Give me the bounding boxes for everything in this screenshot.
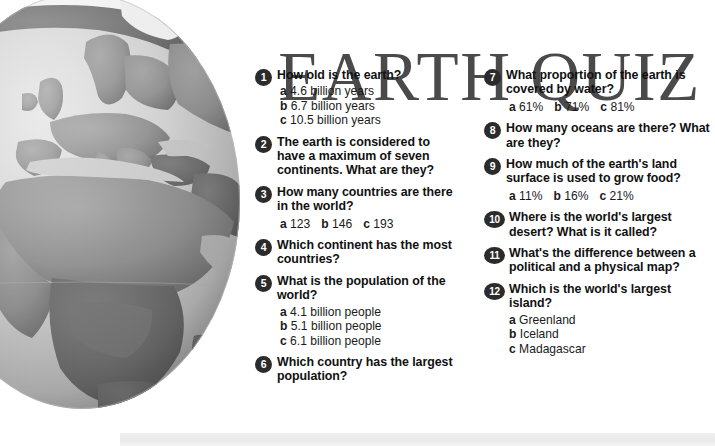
- turkey-anatolia: [150, 154, 210, 186]
- answer-value: 146: [332, 217, 352, 231]
- question-number-badge: 6: [255, 356, 272, 373]
- question-number-badge: 1: [255, 69, 272, 86]
- answer-value: 6.7 billion years: [291, 99, 375, 113]
- greenland: [120, 0, 186, 40]
- quiz-question-3: 3How many countries are there in the wor…: [255, 185, 460, 231]
- question-number-badge: 8: [484, 122, 501, 139]
- answer-option-c[interactable]: c Madagascar: [509, 342, 712, 356]
- answer-option-a[interactable]: a 4.1 billion people: [280, 305, 460, 319]
- answer-value: 71%: [565, 100, 589, 114]
- question-text: What is the population of the world?: [277, 274, 460, 303]
- answer-option-b[interactable]: b 146: [321, 217, 352, 231]
- bottom-panel-strip: [120, 433, 715, 446]
- arabian-sea: [200, 235, 242, 286]
- question-number-badge: 4: [255, 239, 272, 256]
- iberia: [16, 139, 62, 176]
- answer-label: b: [553, 189, 560, 203]
- answer-option-c[interactable]: c 193: [363, 217, 393, 231]
- answer-option-b[interactable]: b 71%: [554, 100, 589, 114]
- answer-label: c: [599, 189, 606, 203]
- answer-value: 4.1 billion people: [290, 305, 381, 319]
- answer-option-a[interactable]: a 61%: [509, 100, 543, 114]
- answer-option-a[interactable]: a 4.6 billion years: [280, 84, 460, 98]
- question-text: The earth is considered to have a maximu…: [277, 135, 460, 178]
- answer-option-b[interactable]: b Iceland: [509, 327, 712, 341]
- answer-value: 5.1 billion people: [291, 319, 382, 333]
- question-number-badge: 11: [484, 247, 505, 264]
- answer-label: a: [280, 217, 287, 231]
- question-number-badge: 9: [484, 158, 501, 175]
- quiz-question-1: 1How old is the earth?a 4.6 billion year…: [255, 68, 460, 128]
- africa-highlands: [68, 302, 152, 358]
- answer-option-c[interactable]: c 21%: [599, 189, 633, 203]
- question-text: Which country has the largest population…: [277, 355, 460, 384]
- quiz-question-2: 2The earth is considered to have a maxim…: [255, 135, 460, 178]
- answer-option-a[interactable]: a 11%: [509, 189, 542, 203]
- central-africa: [49, 278, 184, 406]
- question-text: Which is the world's largest island?: [509, 282, 712, 311]
- question-text: Which continent has the most countries?: [277, 238, 460, 267]
- answer-value: 10.5 billion years: [290, 113, 381, 127]
- arctic-ice: [0, 0, 222, 42]
- answer-option-c[interactable]: c 6.1 billion people: [280, 334, 460, 348]
- italy: [96, 152, 115, 182]
- question-text: What's the difference between a politica…: [509, 246, 712, 275]
- answer-label: a: [280, 84, 287, 98]
- quiz-question-5: 5What is the population of the world?a 4…: [255, 274, 460, 348]
- quiz-question-9: 9How much of the earth's land surface is…: [484, 157, 712, 203]
- question-column-left: 1How old is the earth?a 4.6 billion year…: [255, 68, 460, 391]
- answer-value: 61%: [519, 100, 543, 114]
- answer-option-c[interactable]: c 81%: [600, 100, 634, 114]
- answer-option-c[interactable]: c 10.5 billion years: [280, 113, 460, 127]
- answer-value: 193: [373, 217, 393, 231]
- quiz-question-10: 10Where is the world's largest desert? W…: [484, 210, 712, 239]
- quiz-question-11: 11What's the difference between a politi…: [484, 246, 712, 275]
- question-text: What proportion of the earth is covered …: [506, 68, 712, 97]
- answer-value: 16%: [564, 189, 588, 203]
- north-africa: [0, 174, 234, 296]
- answer-option-a[interactable]: a Greenland: [509, 313, 712, 327]
- question-number-badge: 10: [484, 211, 505, 228]
- quiz-question-4: 4Which continent has the most countries?: [255, 238, 460, 267]
- answer-value: 6.1 billion people: [290, 334, 381, 348]
- answer-label: b: [280, 319, 287, 333]
- answer-option-b[interactable]: b 16%: [553, 189, 588, 203]
- svalbard: [174, 8, 204, 27]
- question-text: Where is the world's largest desert? Wha…: [509, 210, 712, 239]
- answer-label: c: [600, 100, 607, 114]
- question-number-badge: 5: [255, 275, 272, 292]
- west-africa: [0, 218, 56, 338]
- madagascar: [192, 335, 216, 379]
- answer-value: 81%: [610, 100, 634, 114]
- answer-label: a: [509, 313, 516, 327]
- answer-options: a 4.1 billion peopleb 5.1 billion people…: [280, 305, 460, 348]
- question-text: How many oceans are there? What are they…: [506, 121, 712, 150]
- question-number-badge: 3: [255, 186, 272, 203]
- answer-value: Madagascar: [519, 342, 586, 356]
- answer-value: 21%: [610, 189, 634, 203]
- answer-label: a: [280, 305, 287, 319]
- equator-line: [0, 282, 240, 286]
- answer-option-a[interactable]: a 123: [280, 217, 310, 231]
- answer-value: Greenland: [519, 313, 575, 327]
- quiz-question-8: 8How many oceans are there? What are the…: [484, 121, 712, 150]
- mediterranean-sea: [26, 157, 184, 182]
- answer-value: 11%: [519, 189, 542, 203]
- answer-label: b: [280, 99, 287, 113]
- answer-label: c: [280, 334, 287, 348]
- answer-value: Iceland: [520, 327, 559, 341]
- europe-mainland: [50, 113, 170, 166]
- answer-option-b[interactable]: b 6.7 billion years: [280, 99, 460, 113]
- quiz-question-7: 7What proportion of the earth is covered…: [484, 68, 712, 114]
- question-number-badge: 12: [484, 283, 505, 300]
- question-text: How old is the earth?: [277, 68, 460, 82]
- question-number-badge: 2: [255, 136, 272, 153]
- answer-options: a 123b 146c 193: [280, 217, 460, 231]
- balkans: [117, 148, 152, 177]
- answer-option-b[interactable]: b 5.1 billion people: [280, 319, 460, 333]
- middle-east: [190, 173, 242, 238]
- southern-africa: [98, 381, 175, 426]
- question-number-badge: 7: [484, 69, 501, 86]
- quiz-question-6: 6Which country has the largest populatio…: [255, 355, 460, 384]
- question-text: How many countries are there in the worl…: [277, 185, 460, 214]
